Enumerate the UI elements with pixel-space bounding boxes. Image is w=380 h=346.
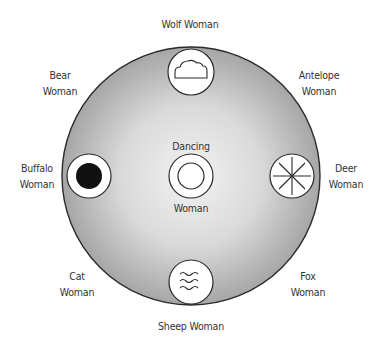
label-line: Deer (329, 160, 363, 176)
label-line: Wolf Woman (162, 16, 219, 32)
eight-point-star-icon (270, 154, 314, 198)
label-buffalo-woman: Buffalo Woman (20, 160, 54, 192)
water-waves-icon (169, 260, 213, 304)
concentric-circles-icon (169, 154, 213, 198)
label-line: Fox (291, 268, 325, 284)
center-label-bottom: Woman (174, 200, 208, 216)
label-wolf-woman: Wolf Woman (162, 16, 219, 32)
label-fox-woman: Fox Woman (291, 268, 325, 300)
label-antelope-woman: Antelope Woman (299, 67, 340, 99)
label-line: Antelope (299, 67, 340, 83)
label-deer-woman: Deer Woman (329, 160, 363, 192)
center-label-top: Dancing (172, 138, 209, 154)
label-line: Buffalo (20, 160, 54, 176)
diagram-stage: Dancing Woman Wolf Woman Antelope Woman … (0, 0, 380, 346)
label-cat-woman: Cat Woman (60, 268, 94, 300)
label-line: Woman (20, 176, 54, 192)
label-line: Cat (60, 268, 94, 284)
label-bear-woman: Bear Woman (43, 67, 77, 99)
label-line: Woman (60, 284, 94, 300)
label-line: Woman (43, 83, 77, 99)
black-dot-icon (67, 154, 111, 198)
label-line: Bear (43, 67, 77, 83)
label-line: Sheep Woman (158, 318, 224, 334)
label-sheep-woman: Sheep Woman (158, 318, 224, 334)
label-line: Woman (329, 176, 363, 192)
label-line: Woman (291, 284, 325, 300)
label-line: Woman (299, 83, 340, 99)
cloud-icon (168, 49, 214, 95)
